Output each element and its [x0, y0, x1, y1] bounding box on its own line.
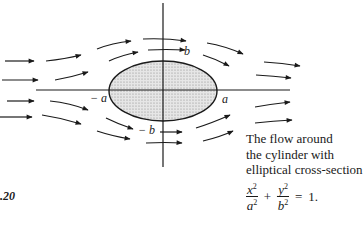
- arrow-icon: [42, 115, 81, 124]
- arrow-icon: [196, 115, 230, 128]
- arrow-icon: [264, 62, 300, 66]
- arrow-icon: [256, 75, 291, 78]
- arrow-icon: [146, 143, 182, 144]
- equation-rhs: 1.: [308, 189, 318, 205]
- arrow-icon: [50, 101, 88, 110]
- caption-line: The flow around: [246, 131, 363, 147]
- arrow-icon: [46, 55, 81, 61]
- arrow-icon: [97, 41, 131, 49]
- arrow-icon: [97, 131, 130, 139]
- arrow-icon: [207, 43, 243, 54]
- equals-sign: =: [295, 189, 302, 205]
- arrow-icon: [255, 102, 290, 107]
- label-pos-b: b: [184, 44, 190, 59]
- fraction-x-over-a: x2 a2: [246, 181, 258, 212]
- arrow-icon: [109, 52, 138, 61]
- caption-line: the cylinder with: [246, 147, 363, 163]
- figure-number: .20: [0, 189, 15, 204]
- label-neg-a: − a: [90, 91, 107, 106]
- label-pos-a: a: [222, 92, 228, 107]
- arrow-icon: [203, 55, 229, 66]
- arrow-icon: [143, 39, 186, 41]
- arrow-icon: [148, 50, 185, 51]
- arrow-icon: [203, 131, 233, 141]
- plus-sign: +: [264, 189, 271, 205]
- ellipse-equation: x2 a2 + y2 b2 = 1.: [246, 181, 318, 212]
- label-neg-b: − b: [138, 123, 155, 138]
- arrow-icon: [55, 72, 88, 80]
- arrow-icon: [255, 120, 292, 123]
- caption-line: elliptical cross-section: [246, 162, 363, 178]
- arrow-icon: [106, 118, 133, 129]
- fraction-y-over-b: y2 b2: [277, 181, 289, 212]
- figure-caption: The flow around the cylinder with ellipt…: [246, 131, 363, 178]
